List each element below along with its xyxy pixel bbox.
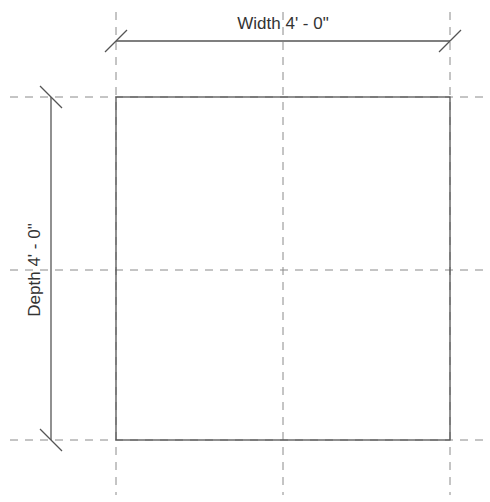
drawing-canvas: Width 4' - 0" Depth 4' - 0": [0, 0, 490, 502]
width-dimension-label[interactable]: Width 4' - 0": [237, 14, 328, 33]
depth-dimension-label[interactable]: Depth 4' - 0": [25, 223, 44, 316]
depth-dimension[interactable]: Depth 4' - 0": [25, 86, 62, 451]
